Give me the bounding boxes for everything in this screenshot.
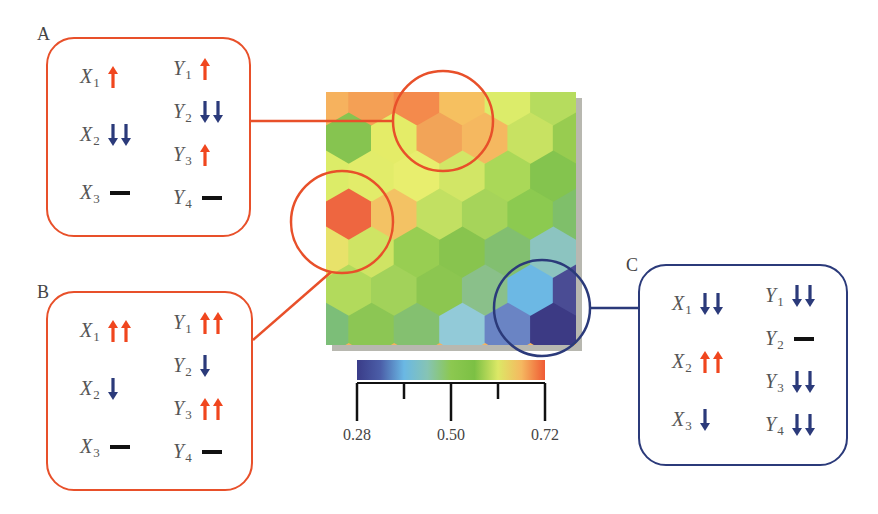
colorbar-min-label: 0.28: [343, 426, 371, 444]
variable-subscript: 3: [685, 418, 692, 434]
variable-label: Y: [173, 311, 184, 334]
variable-y1: Y1: [765, 284, 815, 307]
variable-label: X: [672, 408, 684, 431]
arrow-down-icon: [108, 378, 118, 400]
variable-label: Y: [173, 143, 184, 166]
arrow-up-icon: [200, 144, 210, 166]
variable-label: X: [80, 377, 92, 400]
variable-label: Y: [765, 284, 776, 307]
variable-label: X: [672, 350, 684, 373]
arrow-up-icon: [108, 66, 118, 88]
arrow-down-icon: [700, 409, 710, 431]
arrow-down-icon-double: [108, 124, 131, 146]
variable-subscript: 2: [685, 360, 692, 376]
variable-label: Y: [173, 440, 184, 463]
variable-subscript: 2: [93, 387, 100, 403]
variable-x3: X3: [80, 181, 130, 204]
variable-subscript: 2: [185, 110, 192, 126]
variable-x1: X1: [80, 65, 118, 88]
variable-y2: Y2: [173, 100, 223, 123]
variable-label: Y: [173, 100, 184, 123]
variable-x3: X3: [672, 408, 710, 431]
variable-y1: Y1: [173, 311, 223, 334]
arrow-down-icon-double: [792, 414, 815, 436]
hex-cell: [576, 303, 622, 357]
variable-y3: Y3: [173, 397, 223, 420]
arrow-up-icon-double: [200, 312, 223, 334]
variable-label: Y: [173, 186, 184, 209]
hex-cell: [576, 227, 622, 281]
variable-x1: X1: [80, 319, 131, 342]
variable-subscript: 3: [777, 380, 784, 396]
variable-label: Y: [173, 354, 184, 377]
connector-line-b: [253, 272, 331, 340]
variable-subscript: 3: [93, 191, 100, 207]
variable-label: Y: [765, 370, 776, 393]
variable-subscript: 4: [777, 423, 784, 439]
variable-y3: Y3: [173, 143, 210, 166]
panel-letter-b: B: [37, 282, 49, 303]
arrow-down-icon: [200, 355, 210, 377]
dash-neutral-icon: [108, 191, 130, 195]
variable-y4: Y4: [173, 440, 222, 463]
dash-neutral-icon: [200, 196, 222, 200]
variable-subscript: 2: [93, 133, 100, 149]
variable-label: X: [80, 123, 92, 146]
variable-subscript: 3: [185, 407, 192, 423]
arrow-up-icon-double: [200, 398, 223, 420]
hex-cell: [598, 189, 644, 243]
variable-y2: Y2: [173, 354, 210, 377]
variable-subscript: 1: [93, 329, 100, 345]
arrow-up-icon-double: [700, 351, 723, 373]
variable-subscript: 1: [185, 321, 192, 337]
variable-label: Y: [173, 397, 184, 420]
hex-cell: [576, 74, 622, 128]
variable-subscript: 1: [777, 294, 784, 310]
arrow-down-icon-double: [700, 293, 723, 315]
dash-neutral-icon: [108, 445, 130, 449]
arrow-up-icon: [200, 58, 210, 80]
variable-y3: Y3: [765, 370, 815, 393]
variable-label: Y: [765, 413, 776, 436]
variable-subscript: 3: [93, 445, 100, 461]
variable-x2: X2: [80, 377, 118, 400]
variable-y4: Y4: [765, 413, 815, 436]
variable-y4: Y4: [173, 186, 222, 209]
hex-cell: [576, 151, 622, 205]
hex-grid: [257, 74, 644, 356]
hex-cell: [280, 189, 326, 243]
variable-label: X: [80, 435, 92, 458]
hex-cell: [257, 227, 303, 281]
variable-y1: Y1: [173, 57, 210, 80]
variable-subscript: 1: [685, 302, 692, 318]
variable-label: X: [80, 319, 92, 342]
dash-neutral-icon: [792, 337, 814, 341]
variable-y2: Y2: [765, 327, 814, 350]
arrow-up-icon-double: [108, 320, 131, 342]
variable-label: X: [80, 65, 92, 88]
colorbar-max-label: 0.72: [531, 426, 559, 444]
colorbar-mid-label: 0.50: [437, 426, 465, 444]
panel-letter-c: C: [626, 255, 638, 276]
variable-x3: X3: [80, 435, 130, 458]
arrow-down-icon-double: [200, 101, 223, 123]
panel-letter-a: A: [37, 24, 50, 45]
figure-canvas: AX1X2X3Y1Y2Y3Y4BX1X2X3Y1Y2Y3Y4CX1X2X3Y1Y…: [0, 0, 878, 514]
variable-label: X: [672, 292, 684, 315]
variable-subscript: 2: [185, 364, 192, 380]
colorbar: [357, 360, 545, 380]
variable-subscript: 3: [185, 153, 192, 169]
arrow-down-icon-double: [792, 285, 815, 307]
variable-subscript: 1: [93, 75, 100, 91]
dash-neutral-icon: [200, 450, 222, 454]
variable-x2: X2: [672, 350, 723, 373]
hex-cell: [598, 113, 644, 167]
variable-label: X: [80, 181, 92, 204]
arrow-down-icon-double: [792, 371, 815, 393]
variable-label: Y: [765, 327, 776, 350]
variable-x2: X2: [80, 123, 131, 146]
variable-label: Y: [173, 57, 184, 80]
variable-subscript: 1: [185, 67, 192, 83]
variable-x1: X1: [672, 292, 723, 315]
variable-subscript: 2: [777, 337, 784, 353]
